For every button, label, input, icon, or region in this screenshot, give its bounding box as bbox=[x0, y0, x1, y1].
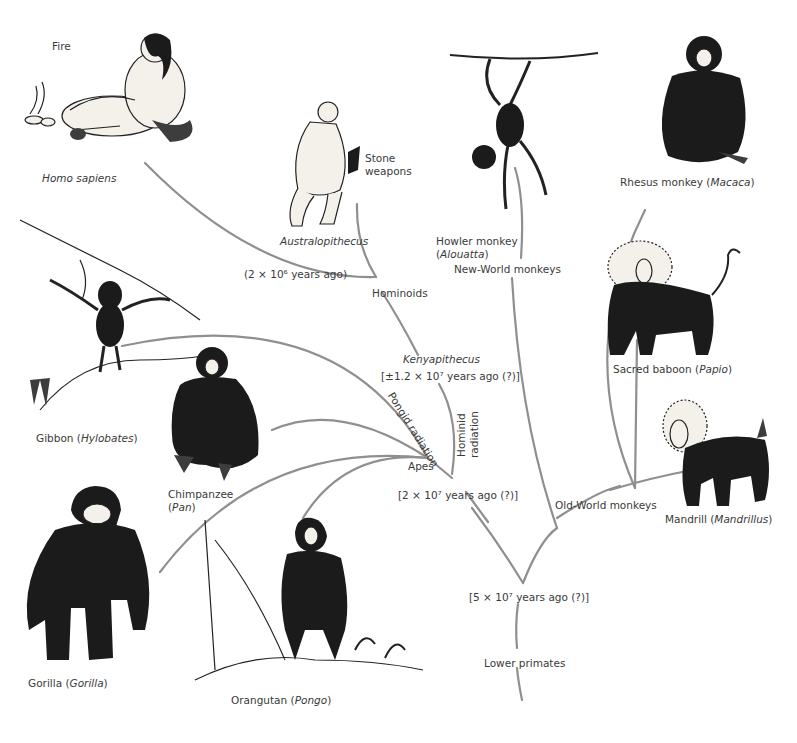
howler-monkey-label: Howler monkey (Alouatta) bbox=[436, 235, 518, 261]
orangutan-common-name: Orangutan bbox=[231, 694, 287, 706]
branch-kenya-to-hominoids bbox=[382, 292, 418, 355]
branch-trunk-bottom bbox=[517, 668, 522, 700]
apes-label: Apes bbox=[408, 460, 434, 473]
gorilla-illustration bbox=[15, 480, 165, 674]
gorilla-common-name: Gorilla bbox=[28, 677, 62, 689]
sacred-baboon-label: Sacred baboon (Papio) bbox=[613, 363, 732, 376]
howler-monkey-illustration bbox=[450, 45, 600, 219]
chimpanzee-label: Chimpanzee (Pan) bbox=[168, 488, 233, 514]
baboon-genus: Papio bbox=[699, 363, 728, 375]
mandrill-common-name: Mandrill bbox=[665, 513, 707, 525]
kenyapithecus-time-label: [±1.2 × 10⁷ years ago (?)] bbox=[381, 370, 520, 383]
chimpanzee-illustration bbox=[166, 345, 276, 489]
howler-common-name: Howler monkey bbox=[436, 235, 518, 247]
gibbon-common-name: Gibbon bbox=[36, 432, 73, 444]
orangutan-label: Orangutan (Pongo) bbox=[231, 694, 331, 707]
fire-label: Fire bbox=[52, 40, 71, 53]
hominid-radiation-label-2: radiation bbox=[468, 411, 481, 458]
rhesus-genus: Macaca bbox=[710, 176, 750, 188]
branch-root-to-apes bbox=[472, 508, 523, 583]
rhesus-monkey-label: Rhesus monkey (Macaca) bbox=[620, 176, 755, 189]
lower-primates-label: Lower primates bbox=[484, 657, 565, 670]
rhesus-monkey-illustration bbox=[648, 32, 758, 176]
australopithecus-label: Australopithecus bbox=[280, 235, 368, 248]
howler-genus: Alouatta bbox=[440, 248, 484, 260]
gibbon-label: Gibbon (Hylobates) bbox=[36, 432, 138, 445]
gibbon-genus: Hylobates bbox=[81, 432, 134, 444]
branch-apes-to-hominid bbox=[439, 384, 454, 474]
branch-trunk bbox=[516, 604, 518, 648]
kenyapithecus-label: Kenyapithecus bbox=[403, 353, 480, 366]
stone-weapons-label-2: weapons bbox=[365, 165, 412, 178]
baboon-common-name: Sacred baboon bbox=[613, 363, 692, 375]
sacred-baboon-illustration bbox=[600, 235, 750, 364]
gorilla-label: Gorilla (Gorilla) bbox=[28, 677, 108, 690]
homo-time-label: (2 × 10⁶ years ago) bbox=[244, 268, 347, 281]
apes-time-label: [2 × 10⁷ years ago (?)] bbox=[398, 489, 518, 502]
branch-new-world bbox=[512, 278, 557, 528]
mandrill-illustration bbox=[655, 390, 780, 519]
mandrill-label: Mandrill (Mandrillus) bbox=[665, 513, 772, 526]
hominid-radiation-label-1: Hominid bbox=[455, 413, 468, 457]
hominoids-label: Hominoids bbox=[372, 287, 428, 300]
mandrill-genus: Mandrillus bbox=[714, 513, 768, 525]
orangutan-genus: Pongo bbox=[295, 694, 328, 706]
old-world-monkeys-label: Old-World monkeys bbox=[555, 499, 657, 512]
orangutan-illustration bbox=[195, 510, 425, 694]
chimpanzee-common-name: Chimpanzee bbox=[168, 488, 233, 500]
branch-root-to-monkeys bbox=[523, 528, 557, 583]
homo-sapiens-label: Homo sapiens bbox=[42, 172, 116, 185]
australopithecus-illustration bbox=[280, 100, 370, 234]
root-time-label: [5 × 10⁷ years ago (?)] bbox=[469, 591, 589, 604]
new-world-monkeys-label: New-World monkeys bbox=[454, 263, 561, 276]
stone-weapons-label-1: Stone bbox=[365, 152, 395, 165]
gorilla-genus: Gorilla bbox=[70, 677, 104, 689]
rhesus-common-name: Rhesus monkey bbox=[620, 176, 703, 188]
chimpanzee-genus: Pan bbox=[172, 501, 191, 513]
